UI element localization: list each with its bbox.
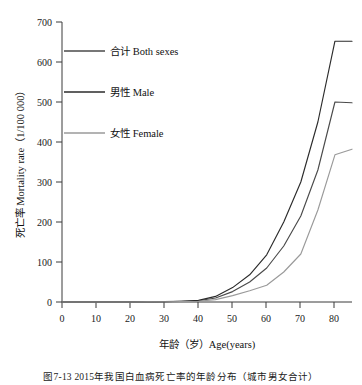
y-tick-label-0: 0 bbox=[47, 297, 52, 308]
figure-caption: 图7-13 2015年我国白血病死亡率的年龄分布（城市男女合计） bbox=[0, 371, 362, 384]
x-tick-label-70: 70 bbox=[295, 313, 305, 324]
x-tick-label-10: 10 bbox=[91, 313, 101, 324]
x-axis-title: 年龄（岁）Age(years) bbox=[159, 338, 256, 351]
y-tick-label-300: 300 bbox=[37, 177, 52, 188]
x-tick-label-30: 30 bbox=[159, 313, 169, 324]
y-tick-label-500: 500 bbox=[37, 97, 52, 108]
x-tick-label-0: 0 bbox=[60, 313, 65, 324]
x-tick-label-60: 60 bbox=[261, 313, 271, 324]
legend-label-male: 男性 Male bbox=[110, 86, 155, 98]
legend-label-both-sexes: 合计 Both sexes bbox=[110, 45, 178, 57]
figure-container: 700 600 500 400 300 200 100 0 死亡率 Mortal… bbox=[0, 0, 362, 385]
y-tick-label-600: 600 bbox=[37, 57, 52, 68]
y-tick-label-400: 400 bbox=[37, 137, 52, 148]
y-tick-label-700: 700 bbox=[37, 17, 52, 28]
chart-background bbox=[0, 0, 362, 385]
y-axis-title: 死亡率 Mortality rate（1/100 000） bbox=[14, 86, 26, 239]
x-tick-label-50: 50 bbox=[227, 313, 237, 324]
y-tick-label-200: 200 bbox=[37, 217, 52, 228]
x-tick-label-20: 20 bbox=[125, 313, 135, 324]
mortality-rate-line-chart: 700 600 500 400 300 200 100 0 死亡率 Mortal… bbox=[0, 0, 362, 385]
legend-label-female: 女性 Female bbox=[110, 127, 164, 139]
y-tick-label-100: 100 bbox=[37, 257, 52, 268]
x-tick-label-80: 80 bbox=[329, 313, 339, 324]
x-tick-label-40: 40 bbox=[193, 313, 203, 324]
